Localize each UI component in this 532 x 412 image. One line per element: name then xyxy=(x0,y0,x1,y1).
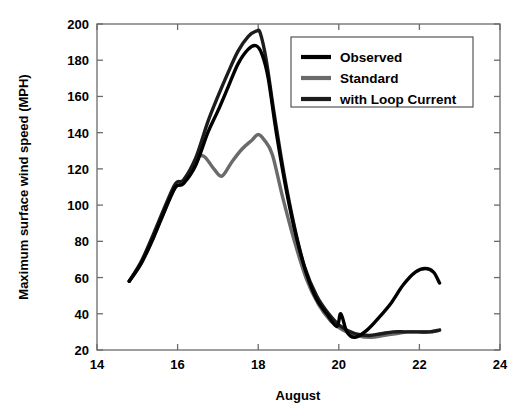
y-tick-label: 60 xyxy=(75,271,89,286)
y-tick-label: 160 xyxy=(67,89,89,104)
legend-label: with Loop Current xyxy=(339,92,457,107)
x-tick-label: 20 xyxy=(332,357,346,372)
y-tick-label: 140 xyxy=(67,126,89,141)
legend-label: Standard xyxy=(340,71,399,86)
x-tick-label: 24 xyxy=(493,357,508,372)
x-tick-label: 18 xyxy=(251,357,265,372)
y-axis-title: Maximum surface wind speed (MPH) xyxy=(16,74,31,299)
y-tick-label: 180 xyxy=(67,53,89,68)
y-tick-label: 40 xyxy=(75,307,89,322)
chart-figure: 141618202224 20406080100120140160180200 … xyxy=(0,0,532,412)
y-tick-label: 200 xyxy=(67,17,89,32)
y-tick-label: 80 xyxy=(75,234,89,249)
legend-label: Observed xyxy=(340,50,402,65)
x-tick-label: 16 xyxy=(170,357,184,372)
chart-legend: ObservedStandardwith Loop Current xyxy=(291,37,473,107)
line-chart: 141618202224 20406080100120140160180200 … xyxy=(0,0,532,412)
y-tick-label: 100 xyxy=(67,198,89,213)
y-tick-label: 120 xyxy=(67,162,89,177)
y-tick-label: 20 xyxy=(75,343,89,358)
x-tick-label: 14 xyxy=(90,357,105,372)
x-tick-label: 22 xyxy=(412,357,426,372)
x-axis-title: August xyxy=(276,388,321,403)
